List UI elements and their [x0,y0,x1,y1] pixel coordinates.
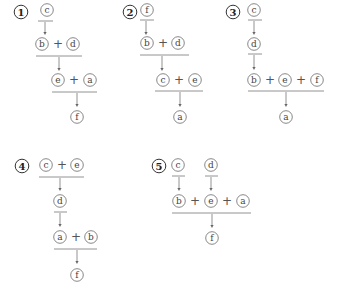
term-letter: f [145,5,149,15]
plus-sign: + [296,73,306,87]
term-letter: e [192,75,197,85]
term-letter: b [251,75,257,85]
option-number[interactable]: 3 [226,5,240,19]
term-letter: d [70,39,76,49]
svg-text:4: 4 [19,161,26,172]
equation-row: d [54,195,67,208]
equation-row: ab+ [54,230,98,244]
equation-row: ea+ [52,73,97,87]
equation-row: f [141,4,154,17]
term-a: a [237,195,250,208]
term-c: c [172,159,185,172]
term-e: e [71,159,84,172]
term-c: c [41,4,54,17]
down-arrow-icon [284,92,287,107]
option-number[interactable]: 5 [152,159,166,173]
plus-sign: + [265,73,275,87]
plus-sign: + [190,194,200,208]
term-b: b [173,195,186,208]
down-arrow-icon [58,213,61,227]
term-letter: b [176,196,182,206]
term-e: e [279,74,292,87]
answer-option-4[interactable]: 4ce+dab+f [15,158,97,281]
term-letter: a [283,112,289,122]
answer-option-2[interactable]: 2fbd+ce+a [123,4,203,124]
term-a: a [174,111,187,124]
option-number[interactable]: 4 [15,159,29,173]
equation-row: d [248,38,261,51]
svg-text:2: 2 [127,7,134,18]
down-arrow-icon [177,177,180,191]
term-d: d [67,38,80,51]
term-f: f [71,111,84,124]
term-c: c [40,159,53,172]
equation-row: a [280,111,293,124]
equation-row: ce+ [40,158,84,172]
term-letter: b [88,232,94,242]
equation-row: a [174,111,187,124]
option-number[interactable]: 2 [123,5,137,19]
plus-sign: + [71,230,81,244]
down-arrow-icon [75,93,78,107]
term-letter: e [55,75,60,85]
equation-row: bef++ [248,73,324,87]
plus-sign: + [53,37,63,51]
down-arrow-icon [252,55,255,70]
plus-sign: + [57,158,67,172]
term-letter: f [75,112,79,122]
down-arrow-icon [210,214,213,228]
equation-row: c [41,4,54,17]
equation-row: bd+ [36,37,80,51]
answer-option-5[interactable]: 5cdbea++f [152,159,251,245]
term-letter: a [57,232,63,242]
term-letter: c [175,160,180,170]
answer-option-1[interactable]: 1cbd+ea+f [14,4,97,124]
term-letter: f [210,233,214,243]
term-letter: c [44,5,49,15]
term-letter: d [175,38,181,48]
svg-text:5: 5 [156,161,163,172]
term-e: e [205,195,218,208]
term-letter: f [315,75,319,85]
term-a: a [280,111,293,124]
term-b: b [141,37,154,50]
term-letter: c [43,160,48,170]
term-f: f [311,74,324,87]
term-letter: b [144,38,150,48]
down-arrow-icon [144,21,147,35]
term-f: f [206,232,219,245]
term-c: c [157,74,170,87]
term-e: e [189,74,202,87]
term-letter: a [240,196,246,206]
term-letter: c [251,5,256,15]
term-letter: d [251,39,257,49]
down-arrow-icon [160,56,163,71]
equation-row: bd+ [141,36,185,50]
equation-row: f [71,269,84,282]
option-number[interactable]: 1 [14,5,28,19]
answer-option-3[interactable]: 3cdbef++a [226,4,324,124]
term-c: c [248,4,261,17]
down-arrow-icon [75,250,78,264]
equation-row: f [71,111,84,124]
term-letter: d [208,160,214,170]
term-letter: f [75,270,79,280]
answer-choices-diagram: 1cbd+ea+f2fbd+ce+a3cdbef++a4ce+dab+f5cdb… [0,0,341,294]
equation-row: ce+ [157,73,202,87]
equation-row: f [206,232,219,245]
plus-sign: + [222,194,232,208]
term-f: f [71,269,84,282]
term-b: b [85,231,98,244]
svg-text:1: 1 [18,7,25,18]
equation-row: c [248,4,261,17]
down-arrow-icon [178,92,181,107]
plus-sign: + [69,73,79,87]
term-b: b [248,74,261,87]
term-letter: d [57,196,63,206]
term-letter: e [208,196,213,206]
down-arrow-icon [209,177,212,191]
term-letter: c [160,75,165,85]
term-letter: a [87,75,93,85]
term-d: d [54,195,67,208]
term-e: e [52,74,65,87]
